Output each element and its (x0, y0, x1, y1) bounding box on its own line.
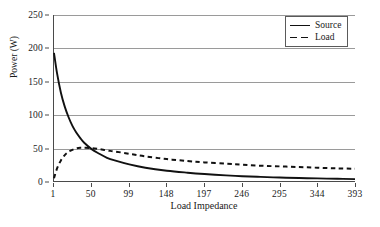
y-tick-mark (45, 15, 49, 16)
series-line-source (54, 53, 355, 179)
y-tick-label: 50 (33, 144, 43, 154)
x-tick-label: 197 (197, 189, 212, 199)
legend-label: Load (315, 31, 335, 43)
x-tick-mark (242, 183, 243, 187)
y-tick-mark (45, 182, 49, 183)
y-axis-ticks: 050100150200250 (0, 15, 49, 182)
legend-label: Source (315, 19, 341, 31)
legend-dashed-line-icon (290, 33, 310, 41)
x-axis-ticks: 15099148197246295344393 (53, 183, 355, 199)
y-tick-label: 250 (28, 10, 43, 20)
y-tick-mark (45, 81, 49, 82)
x-tick-label: 246 (234, 189, 249, 199)
x-tick-label: 1 (51, 189, 56, 199)
x-tick-label: 148 (159, 189, 174, 199)
x-axis-title: Load Impedance (53, 200, 355, 211)
y-tick-mark (45, 115, 49, 116)
x-tick-mark (204, 183, 205, 187)
x-tick-mark (280, 183, 281, 187)
x-tick-label: 295 (272, 189, 287, 199)
x-tick-label: 50 (86, 189, 96, 199)
x-tick-mark (355, 183, 356, 187)
y-tick-label: 100 (28, 110, 43, 120)
y-tick-mark (45, 48, 49, 49)
y-tick-label: 150 (28, 77, 43, 87)
x-tick-mark (317, 183, 318, 187)
legend-item-load: Load (290, 31, 341, 43)
x-tick-mark (91, 183, 92, 187)
legend-item-source: Source (290, 19, 341, 31)
x-tick-mark (166, 183, 167, 187)
y-tick-label: 200 (28, 43, 43, 53)
x-tick-label: 344 (310, 189, 325, 199)
y-tick-mark (45, 148, 49, 149)
x-tick-mark (129, 183, 130, 187)
x-tick-label: 99 (124, 189, 134, 199)
y-tick-label: 0 (38, 177, 43, 187)
x-tick-mark (53, 183, 54, 187)
x-tick-label: 393 (348, 189, 363, 199)
legend-solid-line-icon (290, 21, 310, 29)
power-vs-load-impedance-chart: Power (W) 050100150200250 15099148197246… (0, 0, 380, 227)
chart-legend: SourceLoad (285, 16, 348, 47)
